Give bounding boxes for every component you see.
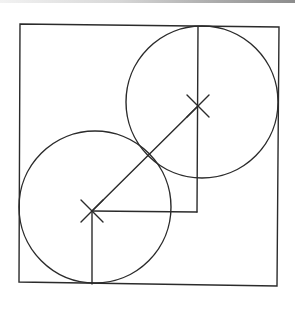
vertical-line-upper <box>197 27 198 212</box>
geometric-diagram <box>0 0 295 309</box>
center-to-center-line <box>92 106 198 211</box>
lower-left-circle <box>19 131 171 283</box>
horizontal-line <box>92 211 197 212</box>
